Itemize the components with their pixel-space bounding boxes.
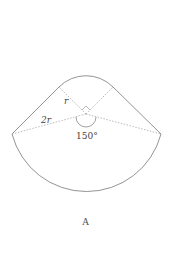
figure-caption: A <box>0 216 171 227</box>
label-2r: 2r <box>40 115 52 125</box>
large-sector-arc <box>12 134 161 192</box>
small-sector-arc <box>59 76 113 87</box>
label-r: r <box>64 96 69 106</box>
angle-arc-marker <box>76 117 96 127</box>
left-tangent-edge <box>12 87 59 134</box>
right-tangent-edge <box>113 87 161 134</box>
label-angle: 150° <box>76 131 98 141</box>
right-angle-marker <box>82 106 90 110</box>
